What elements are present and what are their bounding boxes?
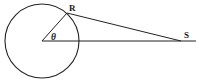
point-label-s: S (184, 30, 189, 40)
geometry-diagram-canvas: R S θ (0, 0, 199, 81)
angle-label-theta: θ (51, 32, 56, 42)
tangent-segment-r-to-s (67, 13, 181, 41)
point-label-r: R (69, 3, 76, 13)
diagram-svg: R S θ (0, 0, 199, 81)
